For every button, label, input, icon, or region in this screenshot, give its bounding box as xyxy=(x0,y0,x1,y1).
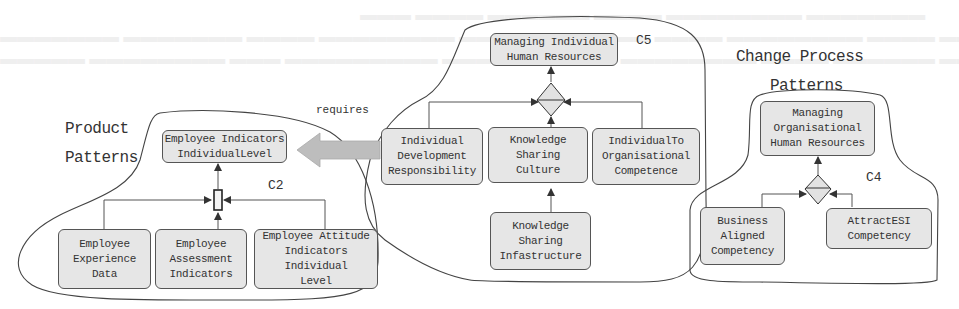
node-text: Organisational xyxy=(770,121,865,136)
change-process-title-line2: Patterns xyxy=(770,70,843,102)
node-knowledge-sharing-culture[interactable]: KnowledgeSharingCulture xyxy=(488,127,588,183)
node-attract-esi-competency[interactable]: AttractESICompetency xyxy=(826,208,932,249)
node-text: Competence xyxy=(602,164,690,179)
node-text: Level xyxy=(255,274,377,289)
node-text: Responsibility xyxy=(388,164,476,179)
cluster-label-c2: C2 xyxy=(268,178,284,193)
node-text: Culture xyxy=(510,163,567,178)
node-text: Human Resources xyxy=(770,136,865,151)
node-text: Knowledge xyxy=(500,219,582,234)
node-text: Employee Indicators xyxy=(165,132,285,147)
node-text: Development xyxy=(388,149,476,164)
requires-label: requires xyxy=(316,104,369,116)
cluster-label-c4: C4 xyxy=(866,170,882,185)
cluster-label-c5: C5 xyxy=(636,33,652,48)
node-text: Employee Attitude xyxy=(255,229,377,244)
node-text: Data xyxy=(73,267,136,282)
node-employee-indicators-individual-level[interactable]: Employee IndicatorsIndividualLevel xyxy=(162,130,287,163)
node-text: Individual xyxy=(388,134,476,149)
c4-or-connector xyxy=(805,175,831,204)
node-text: Business xyxy=(711,214,774,229)
change-process-title-line1: Change Process xyxy=(736,41,863,73)
node-text: Sharing xyxy=(510,148,567,163)
node-text: Human Resources xyxy=(494,50,614,65)
node-text: IndividualLevel xyxy=(165,147,285,162)
node-text: Knowledge xyxy=(510,133,567,148)
node-text: Assessment xyxy=(169,252,232,267)
node-managing-individual-human-resources[interactable]: Managing IndividualHuman Resources xyxy=(490,33,618,66)
node-employee-experience-data[interactable]: EmployeeExperienceData xyxy=(58,229,151,289)
node-employee-assessment-indicators[interactable]: EmployeeAssessmentIndicators xyxy=(155,229,247,289)
node-text: Competency xyxy=(711,244,774,259)
node-individual-development-responsibility[interactable]: IndividualDevelopmentResponsibility xyxy=(381,128,483,185)
node-text: Employee xyxy=(169,237,232,252)
node-individual-to-organisational-competence[interactable]: IndividualToOrganisationalCompetence xyxy=(592,128,700,185)
node-text: Infastructure xyxy=(500,249,582,264)
node-text: Organisational xyxy=(602,149,690,164)
product-patterns-title-line1: Product xyxy=(65,113,129,145)
node-text: Managing Individual xyxy=(494,35,614,50)
node-text: Competency xyxy=(847,229,910,244)
node-knowledge-sharing-infastructure[interactable]: KnowledgeSharingInfastructure xyxy=(490,212,591,270)
product-patterns-title-line2: Patterns xyxy=(65,142,138,174)
node-text: Experience xyxy=(73,252,136,267)
node-text: IndividualTo xyxy=(602,134,690,149)
node-text: Employee xyxy=(73,237,136,252)
c2-and-connector xyxy=(214,190,222,210)
node-text: Indicators Individual xyxy=(255,244,377,274)
node-business-aligned-competency[interactable]: BusinessAlignedCompetency xyxy=(700,207,785,265)
node-text: Managing xyxy=(770,106,865,121)
node-text: Aligned xyxy=(711,229,774,244)
node-text: Sharing xyxy=(500,234,582,249)
node-text: AttractESI xyxy=(847,214,910,229)
node-managing-organisational-human-resources[interactable]: ManagingOrganisationalHuman Resources xyxy=(760,101,875,156)
node-employee-attitude-indicators[interactable]: Employee AttitudeIndicators IndividualLe… xyxy=(254,229,378,289)
node-text: Indicators xyxy=(169,267,232,282)
